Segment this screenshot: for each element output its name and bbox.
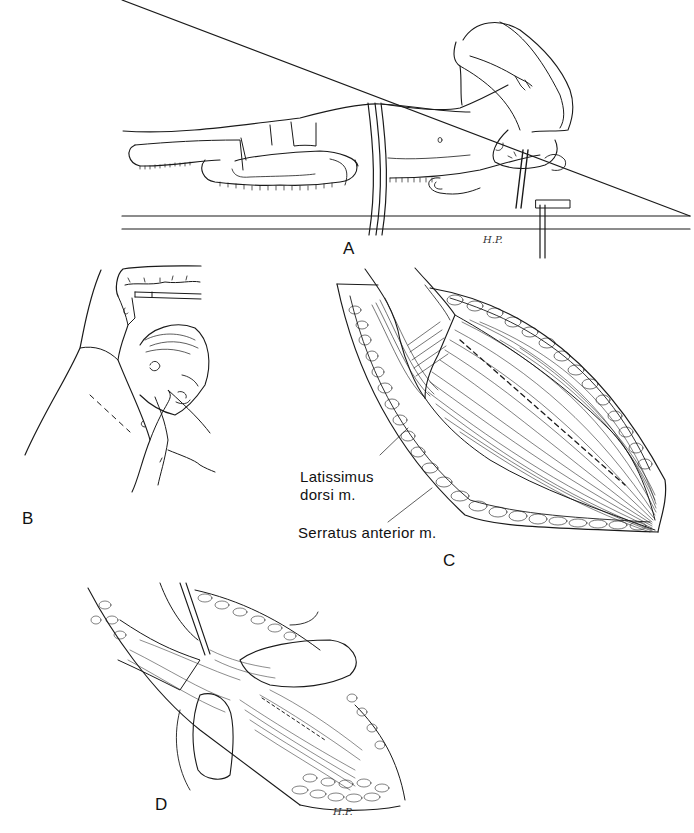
panel-label-d: D [155,796,167,813]
artist-signature-a: H.P. [483,234,503,245]
figure-caption-truncated [0,823,694,833]
panel-c: Latissimus dorsi m. Serratus anterior m.… [280,260,694,580]
panel-label-c: C [443,552,455,569]
panel-d-illustration [0,580,694,823]
label-latissimus-line1: Latissimus [300,468,374,486]
panel-label-b: B [22,510,33,527]
artist-signature-d: H.P. [333,806,353,817]
label-latissimus-dorsi: Latissimus dorsi m. [300,468,374,504]
label-latissimus-line2: dorsi m. [300,486,374,504]
label-serratus-anterior: Serratus anterior m. [298,524,437,542]
panel-a-illustration [0,0,694,260]
panel-label-a: A [343,240,354,257]
panel-d: H.P. D [0,580,694,823]
panel-a: H.P. A [0,0,694,260]
caption-fragment [0,825,694,833]
